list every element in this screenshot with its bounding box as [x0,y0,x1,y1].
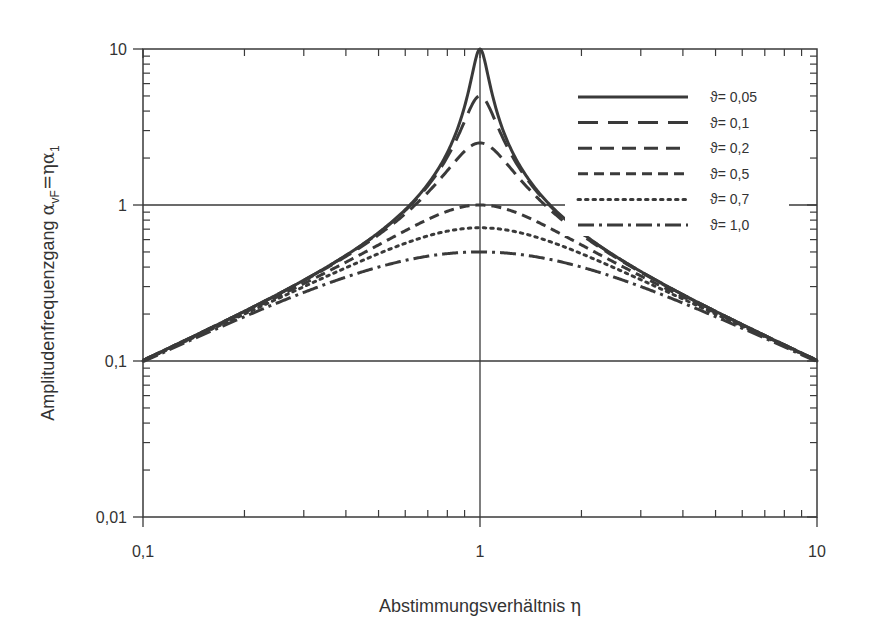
x-tick-label: 0,1 [132,543,154,560]
x-axis-title-text: Abstimmungsverhältnis [379,596,570,616]
eta-symbol: η [570,595,581,616]
legend-label-3: ϑ= 0,5 [710,166,749,182]
equation-eta-alpha: =ηα [37,152,58,190]
legend: ϑ= 0,05ϑ= 0,1ϑ= 0,2ϑ= 0,5ϑ= 0,7ϑ= 1,0 [565,76,789,236]
legend-label-0: ϑ= 0,05 [710,89,757,105]
y-tick-label: 0,1 [105,353,127,370]
x-tick-label: 10 [808,543,826,560]
x-axis-title: Abstimmungsverhältnis η [379,595,581,616]
legend-label-2: ϑ= 0,2 [710,140,749,156]
legend-label-1: ϑ= 0,1 [710,115,749,131]
subscript-vf: vF [48,190,62,203]
legend-label-5: ϑ= 1,0 [710,217,749,233]
y-tick-label: 0,01 [96,509,127,526]
alpha-symbol: α [37,203,58,215]
chart: ϑ= 0,05ϑ= 0,1ϑ= 0,2ϑ= 0,5ϑ= 0,7ϑ= 1,0 0,… [0,0,870,643]
y-tick-label: 1 [118,197,127,214]
x-tick-label: 1 [476,543,485,560]
y-tick-label: 10 [109,41,127,58]
legend-label-4: ϑ= 0,7 [710,191,749,207]
y-axis-title-text: Amplitudenfrequenzgang [38,216,58,421]
y-axis-title: Amplitudenfrequenzgang αvF=ηα1 [37,145,62,421]
subscript-1: 1 [48,145,62,152]
